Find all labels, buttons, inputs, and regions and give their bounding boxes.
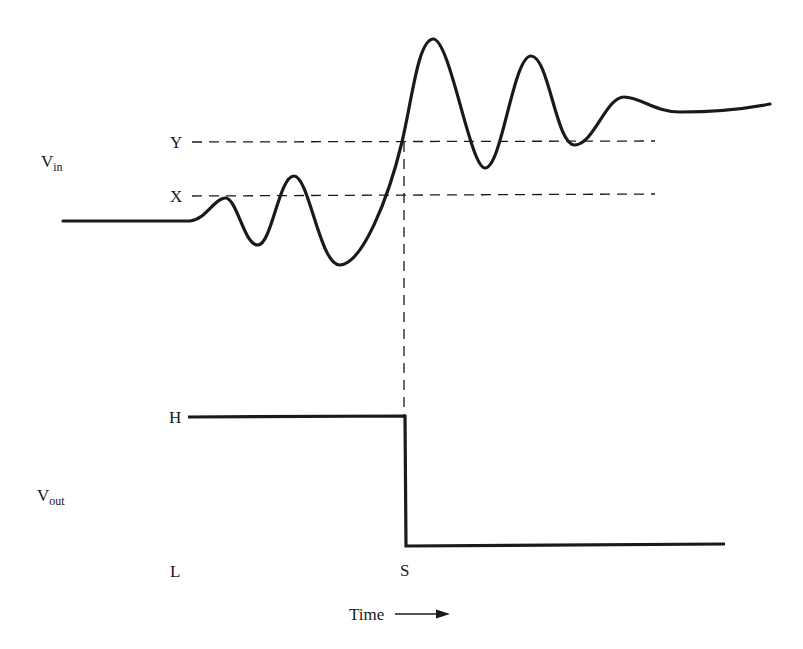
level-low-label: L (170, 563, 180, 580)
threshold-x-label: X (170, 188, 182, 205)
diagram-canvas (0, 0, 803, 649)
vin-waveform (63, 39, 770, 265)
vout-label-sub: out (49, 494, 64, 508)
vin-label: Vin (41, 153, 63, 173)
time-arrow-head-icon (436, 610, 450, 619)
hysteresis-diagram: Vin Y X H Vout L S Time (0, 0, 803, 649)
threshold-x-line (192, 194, 655, 196)
threshold-y-label: Y (170, 134, 182, 151)
vout-waveform (188, 416, 725, 546)
vin-label-main: V (41, 152, 53, 171)
vout-label-main: V (37, 486, 49, 505)
vin-label-sub: in (53, 160, 62, 174)
time-axis-label: Time (349, 606, 384, 623)
switch-point-label: S (400, 562, 409, 579)
level-high-label: H (169, 409, 181, 426)
vout-label: Vout (37, 487, 65, 507)
